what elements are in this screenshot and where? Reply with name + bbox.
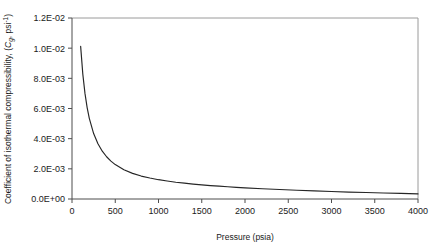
x-tick-label: 2500: [278, 206, 298, 216]
y-axis-title-close: ): [3, 14, 13, 17]
y-tick-label: 0.0E+00: [31, 194, 65, 204]
y-tick-label: 6.0E-03: [33, 104, 65, 114]
x-tick-label: 1000: [148, 206, 168, 216]
y-tick-label: 4.0E-03: [33, 134, 65, 144]
chart-figure: 0.0E+002.0E-034.0E-036.0E-038.0E-031.0E-…: [0, 0, 438, 251]
y-axis-title-main: Coefficient of isothermal compressibilit…: [3, 48, 13, 204]
y-tick-label: 1.0E-02: [33, 44, 65, 54]
x-tick-label: 3500: [365, 206, 385, 216]
x-tick-label: 500: [108, 206, 123, 216]
x-tick-label: 1500: [192, 206, 212, 216]
x-tick-label: 0: [69, 206, 74, 216]
y-tick-label: 2.0E-03: [33, 164, 65, 174]
x-tick-label: 2000: [235, 206, 255, 216]
x-tick-label: 4000: [408, 206, 428, 216]
x-tick-label: 3000: [321, 206, 341, 216]
x-axis-title: Pressure (psia): [216, 232, 274, 242]
y-axis-title-unit: , psi: [3, 23, 13, 39]
y-tick-label: 1.2E-02: [33, 13, 65, 23]
y-tick-label: 8.0E-03: [33, 74, 65, 84]
